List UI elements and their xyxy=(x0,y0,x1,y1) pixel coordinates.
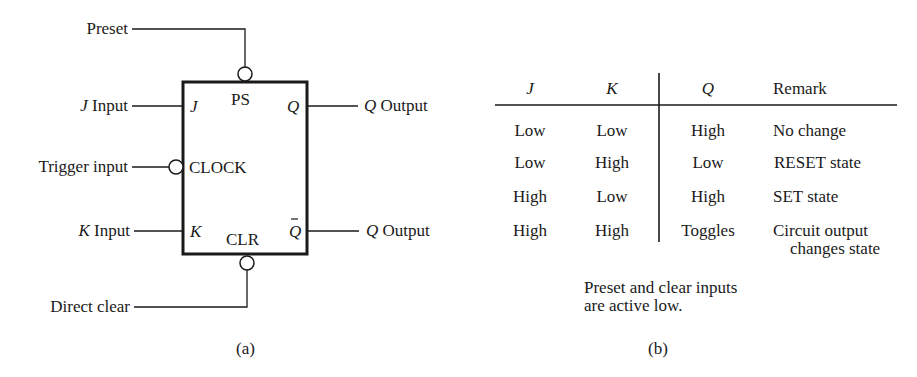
header-j: J xyxy=(510,80,550,97)
clear-bubble-icon xyxy=(240,256,254,270)
box-clock-pin: CLOCK xyxy=(189,159,247,176)
box-j-pin: J xyxy=(190,98,198,115)
clock-bubble-icon xyxy=(169,160,183,174)
header-k: K xyxy=(592,80,632,97)
preset-label: Preset xyxy=(30,20,128,37)
caption-a: (a) xyxy=(236,340,255,357)
box-clr-label: CLR xyxy=(226,231,259,248)
note-line-1: Preset and clear inputs xyxy=(584,279,737,296)
qbar-output-label: Q Output xyxy=(366,222,430,239)
header-remark: Remark xyxy=(773,80,827,97)
box-q-pin: Q xyxy=(287,98,299,115)
caption-b: (b) xyxy=(648,340,668,357)
box-ps-label: PS xyxy=(231,91,250,108)
preset-bubble-icon xyxy=(238,67,252,81)
box-qbar-pin: Q xyxy=(289,223,301,240)
k-input-label: K Input xyxy=(30,222,130,239)
trigger-input-label: Trigger input xyxy=(10,158,128,175)
direct-clear-label: Direct clear xyxy=(10,298,130,315)
box-k-pin: K xyxy=(190,223,201,240)
j-input-label: J Input xyxy=(30,97,128,114)
q-output-label: Q Output xyxy=(364,97,428,114)
header-q: Q xyxy=(688,80,728,97)
note-line-2: are active low. xyxy=(584,297,682,314)
